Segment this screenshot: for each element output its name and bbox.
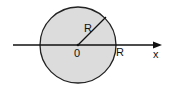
diagram-canvas: R 0 R x (0, 0, 173, 85)
radius-label: R (84, 22, 92, 34)
axis-label: x (153, 48, 159, 60)
axis-intercept-label: R (116, 46, 124, 58)
origin-label: 0 (74, 47, 80, 59)
origin-point (77, 44, 80, 47)
